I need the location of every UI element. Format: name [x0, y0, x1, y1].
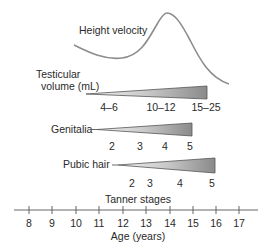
age-tick-9: 9	[49, 217, 55, 229]
testicular-volume-wedge	[86, 86, 207, 99]
genitalia-stage-4: 4	[162, 140, 168, 152]
pubic-hair-wedge	[118, 158, 215, 173]
age-tick-17: 17	[233, 217, 245, 229]
pubic-hair-label: Pubic hair	[63, 158, 110, 170]
age-tick-14: 14	[164, 217, 176, 229]
pubic-hair-stage-2: 2	[129, 177, 135, 189]
testicular-label-line2: volume (mL)	[41, 80, 99, 92]
age-tick-11: 11	[94, 217, 105, 229]
pubic-hair-stage-3: 3	[147, 177, 153, 189]
age-tick-15: 15	[187, 217, 199, 229]
height-velocity-label: Height velocity	[79, 24, 148, 36]
tanner-stages-label: Tanner stages	[105, 193, 171, 205]
puberty-timeline-diagram: Height velocity Testicular volume (mL) 4…	[0, 0, 265, 251]
pubic-hair-stage-5: 5	[209, 177, 215, 189]
age-tick-16: 16	[210, 217, 222, 229]
genitalia-wedge	[97, 123, 192, 136]
genitalia-stage-2: 2	[109, 140, 115, 152]
genitalia-stage-3: 3	[137, 140, 143, 152]
testicular-value-1: 4–6	[100, 101, 118, 113]
pubic-hair-stage-4: 4	[177, 177, 183, 189]
genitalia-label: Genitalia	[51, 123, 93, 135]
testicular-label-line1: Testicular	[36, 68, 81, 80]
age-axis-title: Age (years)	[111, 230, 165, 242]
genitalia-stage-5: 5	[187, 140, 193, 152]
testicular-value-2: 10–12	[146, 101, 175, 113]
age-tick-12: 12	[117, 217, 129, 229]
age-tick-10: 10	[70, 217, 82, 229]
age-tick-8: 8	[26, 217, 32, 229]
testicular-value-3: 15–25	[191, 101, 220, 113]
age-tick-13: 13	[140, 217, 152, 229]
